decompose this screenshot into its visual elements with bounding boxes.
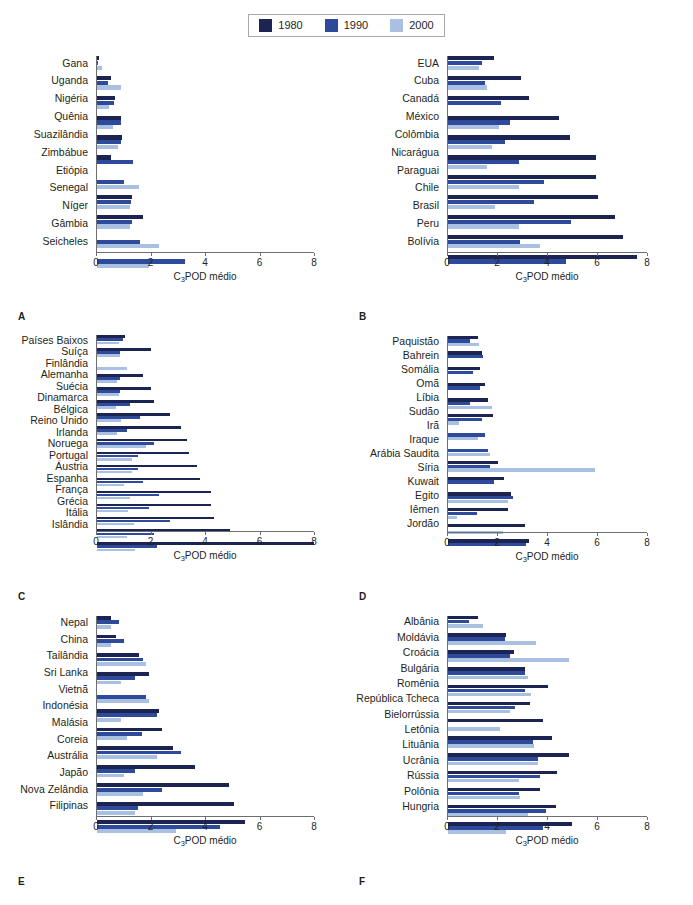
axis-tick-label: 6 (257, 257, 263, 268)
plot-area-b: 02468C3POD médio (447, 54, 647, 274)
category-label: Itália (0, 507, 92, 519)
bar-group (448, 753, 647, 768)
bar-1980 (97, 116, 121, 120)
bar-1980 (97, 783, 229, 787)
panel-letter-c: C (18, 591, 25, 602)
bar-1980 (448, 753, 569, 757)
bar-group (97, 175, 314, 193)
axis-tick-label: 4 (202, 257, 208, 268)
bar-2000 (448, 744, 534, 748)
axis-tick (547, 817, 548, 820)
bar-1990 (448, 809, 546, 813)
axis-tick (314, 532, 315, 535)
bar-group (448, 235, 647, 253)
axis-tick-label: 8 (644, 537, 650, 548)
x-axis: 02468C3POD médio (96, 816, 314, 838)
bar-1990 (97, 200, 131, 204)
bars-area (447, 616, 647, 816)
category-label: Portugal (0, 449, 92, 461)
bar-2000 (97, 367, 127, 370)
bar-2000 (97, 393, 119, 396)
category-label: Brasil (347, 197, 443, 215)
axis-tick (497, 253, 498, 256)
axis-title-suffix: POD médio (527, 835, 579, 846)
bar-2000 (448, 85, 487, 89)
category-label: Paraguai (347, 161, 443, 179)
axis-tick (447, 533, 448, 536)
bar-group (97, 96, 314, 114)
bar-1980 (97, 802, 234, 806)
legend-label-1990: 1990 (344, 20, 368, 31)
bar-1980 (448, 616, 478, 620)
axis-tick (597, 533, 598, 536)
bar-group (97, 335, 314, 347)
bar-1980 (448, 650, 514, 654)
axis-title-subscript: 3 (181, 554, 185, 563)
bar-1980 (448, 398, 488, 401)
bar-2000 (448, 641, 536, 645)
bar-group (448, 336, 647, 350)
bar-1980 (448, 155, 596, 159)
bar-group (97, 653, 314, 670)
axis-tick-label: 2 (148, 257, 154, 268)
axis-title-suffix: POD médio (185, 271, 237, 282)
bar-1980 (448, 667, 525, 671)
panel-e: NepalChinaTailândiaSri LankaVietnãIndoné… (0, 608, 347, 893)
bar-group (97, 728, 314, 745)
bar-2000 (97, 224, 130, 228)
bar-group (97, 361, 314, 373)
bar-1990 (448, 402, 470, 405)
x-axis-title: C3POD médio (447, 835, 647, 846)
bar-group (448, 667, 647, 682)
axis-title-prefix: C (515, 271, 522, 282)
x-axis: 02468C3POD médio (447, 532, 647, 554)
bar-2000 (97, 681, 121, 685)
bar-2000 (448, 516, 457, 519)
x-axis: 02468C3POD médio (447, 816, 647, 838)
bar-1990 (97, 180, 124, 184)
category-label: Quênia (0, 107, 92, 125)
bars-area (447, 56, 647, 252)
legend: 198019902000 (0, 14, 693, 37)
axis-tick (151, 817, 152, 820)
axis-tick (205, 817, 206, 820)
category-label: Iêmen (347, 502, 443, 516)
category-label: Coreia (0, 731, 92, 748)
panel-b: EUACubaCanadáMéxicoColômbiaNicaráguaPara… (347, 48, 693, 328)
bar-1980 (97, 76, 111, 80)
category-labels-a: GanaUgandaNigériaQuêniaSuazilândiaZimbáb… (0, 54, 92, 250)
bar-1980 (448, 76, 521, 80)
bars-area (96, 616, 314, 816)
axis-tick-label: 8 (644, 821, 650, 832)
axis-tick-label: 4 (544, 537, 550, 548)
bar-1980 (448, 135, 570, 139)
panel-letter-a: A (18, 311, 25, 322)
bar-2000 (97, 205, 130, 209)
bar-1990 (97, 120, 121, 124)
bar-2000 (448, 453, 490, 456)
axis-tick-label: 6 (594, 537, 600, 548)
legend-entry-1980: 1980 (259, 19, 302, 32)
bar-group (97, 478, 314, 490)
category-label: Hungria (347, 799, 443, 814)
category-label: Canadá (347, 90, 443, 108)
bar-1980 (448, 351, 482, 354)
bar-group (448, 771, 647, 786)
axis-tick (497, 817, 498, 820)
axis-tick-label: 0 (93, 536, 99, 547)
bar-1980 (448, 685, 548, 689)
bar-1990 (448, 220, 571, 224)
bar-1990 (448, 160, 519, 164)
bar-group (448, 685, 647, 700)
axis-tick (597, 253, 598, 256)
bar-group (448, 135, 647, 153)
bar-2000 (97, 432, 117, 435)
category-label: Bielorrússia (347, 706, 443, 721)
axis-title-suffix: POD médio (185, 550, 237, 561)
category-label: França (0, 484, 92, 496)
axis-tick (647, 817, 648, 820)
bar-1980 (448, 116, 559, 120)
legend-label-1980: 1980 (278, 20, 302, 31)
category-label: Dinamarca (0, 392, 92, 404)
bar-2000 (97, 445, 146, 448)
